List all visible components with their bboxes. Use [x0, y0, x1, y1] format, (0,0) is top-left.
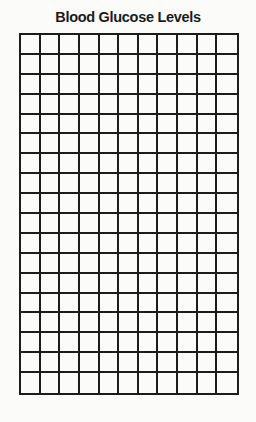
grid-cell	[119, 154, 139, 174]
grid-cell	[80, 95, 100, 115]
grid-cell	[41, 174, 61, 194]
grid-cell	[100, 174, 120, 194]
grid-cell	[178, 313, 198, 333]
grid-cell	[80, 294, 100, 314]
grid-cell	[41, 95, 61, 115]
grid-cell	[139, 333, 159, 353]
grid-cell	[198, 373, 218, 393]
grid-cell	[119, 373, 139, 393]
grid-cell	[198, 134, 218, 154]
grid-cell	[139, 154, 159, 174]
grid-cell	[80, 234, 100, 254]
grid-cell	[41, 75, 61, 95]
grid-cell	[158, 95, 178, 115]
grid-cell	[178, 274, 198, 294]
grid-cell	[60, 174, 80, 194]
grid-cell	[198, 55, 218, 75]
grid-cell	[21, 353, 41, 373]
grid-cell	[80, 134, 100, 154]
grid-cell	[217, 234, 237, 254]
grid-cell	[119, 274, 139, 294]
grid-cell	[139, 115, 159, 135]
grid-cell	[80, 373, 100, 393]
grid-cell	[198, 174, 218, 194]
grid-cell	[100, 35, 120, 55]
grid-cell	[100, 55, 120, 75]
grid-cell	[198, 95, 218, 115]
grid-cell	[60, 254, 80, 274]
grid-cell	[100, 333, 120, 353]
grid-cell	[80, 115, 100, 135]
grid-cell	[217, 115, 237, 135]
grid-cell	[21, 214, 41, 234]
grid-cell	[21, 313, 41, 333]
grid-cell	[198, 214, 218, 234]
grid-cell	[158, 274, 178, 294]
grid-cell	[217, 154, 237, 174]
grid-cell	[158, 154, 178, 174]
grid-cell	[41, 134, 61, 154]
grid-cell	[198, 35, 218, 55]
grid-cell	[100, 75, 120, 95]
grid-cell	[158, 254, 178, 274]
grid-cell	[198, 75, 218, 95]
grid-cell	[158, 214, 178, 234]
grid-cell	[100, 274, 120, 294]
grid-cell	[21, 373, 41, 393]
grid-cell	[119, 214, 139, 234]
grid-cell	[100, 154, 120, 174]
grid-cell	[21, 134, 41, 154]
grid-cell	[217, 294, 237, 314]
grid-cell	[119, 95, 139, 115]
grid-cell	[80, 35, 100, 55]
grid-cell	[198, 154, 218, 174]
grid-cell	[21, 234, 41, 254]
grid-cell	[139, 55, 159, 75]
grid-cell	[217, 274, 237, 294]
grid-cell	[139, 294, 159, 314]
grid-cell	[21, 95, 41, 115]
grid-cell	[41, 313, 61, 333]
grid-cell	[41, 194, 61, 214]
grid-cell	[198, 115, 218, 135]
grid-cell	[100, 353, 120, 373]
grid-cell	[80, 254, 100, 274]
grid-cell	[158, 35, 178, 55]
grid-cell	[178, 55, 198, 75]
grid-cell	[21, 115, 41, 135]
grid-cell	[119, 55, 139, 75]
grid-cell	[139, 373, 159, 393]
grid-cell	[198, 194, 218, 214]
grid-cell	[41, 154, 61, 174]
grid-cell	[139, 254, 159, 274]
grid-cell	[60, 35, 80, 55]
grid-cell	[80, 353, 100, 373]
grid-cell	[158, 234, 178, 254]
grid-cell	[178, 294, 198, 314]
grid-cell	[178, 353, 198, 373]
grid-cell	[119, 254, 139, 274]
grid-cell	[217, 194, 237, 214]
grid-cell	[139, 274, 159, 294]
grid-cell	[100, 194, 120, 214]
grid-cell	[41, 214, 61, 234]
grid-cell	[80, 333, 100, 353]
grid-cell	[21, 55, 41, 75]
grid-cell	[80, 55, 100, 75]
grid-cell	[119, 75, 139, 95]
grid-cell	[158, 174, 178, 194]
grid-cell	[119, 353, 139, 373]
grid-cell	[41, 55, 61, 75]
grid-cell	[198, 333, 218, 353]
grid-cell	[217, 313, 237, 333]
grid-cell	[21, 174, 41, 194]
grid-cell	[139, 214, 159, 234]
grid-cell	[158, 194, 178, 214]
grid-cell	[60, 194, 80, 214]
grid-cell	[41, 274, 61, 294]
grid-cell	[80, 214, 100, 234]
grid-cell	[60, 373, 80, 393]
grid-cell	[119, 234, 139, 254]
grid-cell	[178, 134, 198, 154]
grid-cell	[100, 373, 120, 393]
